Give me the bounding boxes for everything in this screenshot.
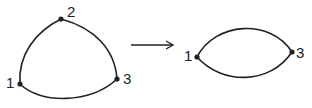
- node-3-label: 3: [123, 70, 131, 87]
- node-3: [289, 49, 294, 54]
- node-1-label: 1: [184, 47, 192, 64]
- edge-1-3: [20, 79, 117, 98]
- edge-2-1: [20, 19, 61, 84]
- diagram: 2 1 3 1 3: [0, 0, 312, 108]
- node-2: [58, 16, 63, 21]
- left-graph: 2 1 3: [6, 3, 131, 98]
- edge-2-3: [61, 19, 117, 79]
- node-1: [17, 81, 22, 86]
- transform-arrow: [131, 41, 173, 49]
- edge-1-3-top: [197, 29, 292, 57]
- edge-1-3-bottom: [197, 52, 292, 77]
- node-1-label: 1: [6, 74, 14, 91]
- node-2-label: 2: [67, 3, 75, 20]
- node-3-label: 3: [296, 44, 304, 61]
- node-3: [114, 76, 119, 81]
- node-1: [194, 54, 199, 59]
- right-graph: 1 3: [184, 29, 304, 78]
